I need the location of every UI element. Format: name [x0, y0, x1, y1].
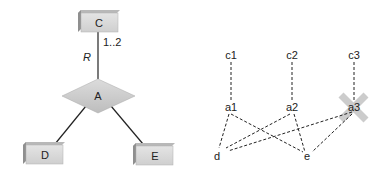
- diagram-canvas: C 1..2 R A D E: [0, 0, 387, 170]
- instance-graph: c1 c2 c3 a1 a2 a3 d e: [214, 49, 366, 162]
- relationship-a-label: A: [94, 90, 102, 102]
- entity-d-label: D: [41, 149, 49, 161]
- multiplicity-label: 1..2: [103, 36, 121, 48]
- entity-c-label: C: [95, 17, 103, 29]
- node-d: d: [214, 150, 220, 162]
- node-a2: a2: [286, 101, 298, 113]
- entity-e: E: [133, 143, 175, 165]
- node-a1: a1: [225, 101, 237, 113]
- entity-d: D: [23, 142, 65, 164]
- connector-a-d: [55, 106, 86, 144]
- role-label: R: [83, 51, 91, 63]
- node-c1: c1: [225, 49, 237, 61]
- edge-a2-e: [294, 114, 305, 152]
- entity-e-label: E: [151, 150, 158, 162]
- node-c2: c2: [286, 49, 298, 61]
- entity-c: C: [78, 10, 120, 32]
- node-a3: a3: [348, 101, 360, 113]
- connector-a-e: [111, 106, 143, 144]
- er-diagram: C 1..2 R A D E: [23, 10, 175, 165]
- edge-a2-d: [226, 114, 290, 148]
- edge-a1-d: [219, 114, 229, 148]
- node-e: e: [304, 150, 310, 162]
- node-c3: c3: [348, 49, 360, 61]
- relationship-a: A: [62, 79, 135, 113]
